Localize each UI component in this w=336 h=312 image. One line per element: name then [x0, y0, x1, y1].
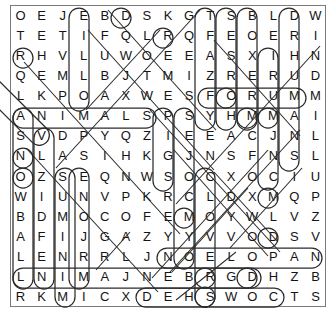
grid-cell[interactable]: Q [115, 126, 136, 146]
grid-cell[interactable]: L [73, 65, 94, 85]
grid-cell[interactable]: H [284, 45, 305, 65]
grid-cell[interactable]: J [52, 5, 73, 25]
grid-cell[interactable]: D [221, 186, 242, 206]
grid-cell[interactable]: I [31, 186, 52, 206]
grid-cell[interactable]: H [31, 45, 52, 65]
grid-cell[interactable]: W [115, 45, 136, 65]
grid-cell[interactable]: L [136, 25, 157, 45]
grid-cell[interactable]: J [115, 65, 136, 85]
grid-cell[interactable]: M [242, 106, 263, 126]
grid-cell[interactable]: V [52, 45, 73, 65]
grid-cell[interactable]: O [115, 206, 136, 226]
grid-cell[interactable]: U [305, 166, 326, 186]
grid-cell[interactable]: M [305, 86, 326, 106]
grid-cell[interactable]: K [31, 287, 52, 307]
grid-cell[interactable]: O [221, 86, 242, 106]
grid-cell[interactable]: I [73, 287, 94, 307]
grid-cell[interactable]: O [200, 206, 221, 226]
grid-cell[interactable]: Y [200, 106, 221, 126]
grid-cell[interactable]: S [200, 287, 221, 307]
grid-cell[interactable]: R [263, 65, 284, 85]
grid-cell[interactable]: V [200, 226, 221, 246]
grid-cell[interactable]: P [157, 106, 178, 126]
grid-cell[interactable]: L [200, 186, 221, 206]
grid-cell[interactable]: Y [94, 126, 115, 146]
grid-cell[interactable]: I [305, 106, 326, 126]
grid-cell[interactable]: Z [136, 226, 157, 246]
grid-cell[interactable]: Z [200, 65, 221, 85]
grid-cell[interactable]: Y [157, 226, 178, 246]
grid-cell[interactable]: R [10, 287, 31, 307]
grid-cell[interactable]: O [242, 287, 263, 307]
grid-cell[interactable]: K [31, 86, 52, 106]
grid-cell[interactable]: N [10, 146, 31, 166]
grid-cell[interactable]: L [10, 86, 31, 106]
grid-cell[interactable]: I [73, 25, 94, 45]
grid-cell[interactable]: E [157, 267, 178, 287]
grid-cell[interactable]: J [179, 146, 200, 166]
grid-cell[interactable]: S [73, 146, 94, 166]
grid-cell[interactable]: L [221, 247, 242, 267]
grid-cell[interactable]: A [10, 106, 31, 126]
grid-cell[interactable]: L [115, 106, 136, 126]
grid-cell[interactable]: S [179, 86, 200, 106]
grid-cell[interactable]: N [52, 247, 73, 267]
grid-cell[interactable]: N [263, 146, 284, 166]
grid-cell[interactable]: E [157, 86, 178, 106]
grid-cell[interactable]: I [52, 267, 73, 287]
grid-cell[interactable]: S [52, 166, 73, 186]
grid-cell[interactable]: Z [284, 267, 305, 287]
grid-cell[interactable]: N [115, 166, 136, 186]
grid-cell[interactable]: M [73, 106, 94, 126]
grid-cell[interactable]: E [31, 5, 52, 25]
grid-cell[interactable]: B [94, 65, 115, 85]
grid-cell[interactable]: M [52, 65, 73, 85]
grid-cell[interactable]: K [157, 5, 178, 25]
grid-cell[interactable]: O [136, 45, 157, 65]
grid-cell[interactable]: D [242, 267, 263, 287]
grid-cell[interactable]: F [200, 25, 221, 45]
grid-cell[interactable]: P [52, 86, 73, 106]
grid-cell[interactable]: D [31, 206, 52, 226]
grid-cell[interactable]: Q [115, 25, 136, 45]
grid-cell[interactable]: L [263, 206, 284, 226]
grid-cell[interactable]: O [242, 25, 263, 45]
grid-cell[interactable]: W [305, 5, 326, 25]
grid-cell[interactable]: B [179, 267, 200, 287]
grid-cell[interactable]: Z [31, 166, 52, 186]
grid-cell[interactable]: O [179, 247, 200, 267]
grid-cell[interactable]: V [305, 226, 326, 246]
grid-cell[interactable]: I [52, 226, 73, 246]
grid-cell[interactable]: R [157, 25, 178, 45]
grid-cell[interactable]: F [242, 146, 263, 166]
grid-cell[interactable]: L [31, 146, 52, 166]
grid-cell[interactable]: S [136, 106, 157, 126]
grid-cell[interactable]: N [31, 106, 52, 126]
grid-cell[interactable]: I [284, 166, 305, 186]
grid-cell[interactable]: I [52, 106, 73, 126]
grid-cell[interactable]: Q [284, 186, 305, 206]
grid-cell[interactable]: X [242, 186, 263, 206]
grid-cell[interactable]: U [284, 65, 305, 85]
grid-cell[interactable]: L [115, 247, 136, 267]
grid-cell[interactable]: A [200, 45, 221, 65]
grid-cell[interactable]: O [10, 5, 31, 25]
grid-cell[interactable]: O [73, 206, 94, 226]
grid-cell[interactable]: G [221, 267, 242, 287]
grid-cell[interactable]: R [73, 247, 94, 267]
grid-cell[interactable]: X [115, 287, 136, 307]
grid-cell[interactable]: Y [179, 226, 200, 246]
grid-cell[interactable]: A [10, 226, 31, 246]
grid-cell[interactable]: F [31, 226, 52, 246]
grid-cell[interactable]: N [305, 247, 326, 267]
grid-cell[interactable]: U [263, 86, 284, 106]
grid-cell[interactable]: P [305, 186, 326, 206]
grid-cell[interactable]: B [94, 5, 115, 25]
grid-cell[interactable]: R [157, 186, 178, 206]
grid-cell[interactable]: N [284, 126, 305, 146]
grid-cell[interactable]: E [73, 166, 94, 186]
grid-cell[interactable]: L [263, 5, 284, 25]
grid-cell[interactable]: R [94, 247, 115, 267]
grid-cell[interactable]: D [284, 5, 305, 25]
grid-cell[interactable]: F [94, 25, 115, 45]
